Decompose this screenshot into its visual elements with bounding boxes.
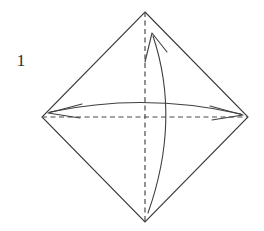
fold-diagram-svg xyxy=(0,0,264,231)
step-number-label: 1 xyxy=(12,52,30,70)
figure-canvas: 1 xyxy=(0,0,264,231)
vertical-fold-arrow-curve xyxy=(148,36,166,213)
